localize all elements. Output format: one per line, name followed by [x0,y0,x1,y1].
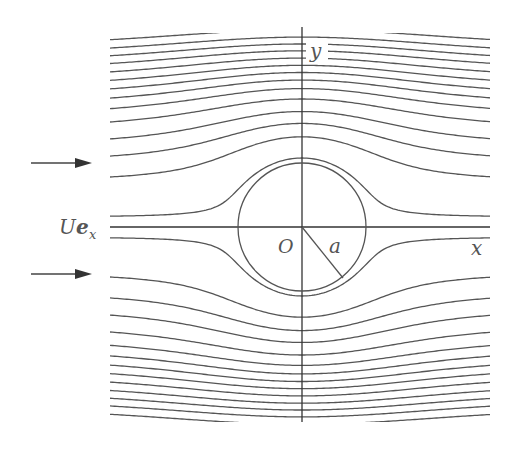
origin-label: O [278,235,294,257]
x-axis-label: x [471,236,482,260]
free-stream-label: U e x [59,215,97,242]
arrow-head-icon [75,269,92,279]
cylinder-flow-diagram: y x O a U e x [0,0,521,454]
radius-label: a [329,234,341,258]
streamline-lower [110,423,494,432]
y-axis-label: y [309,39,322,63]
free-stream-u: U [59,215,77,239]
free-stream-arrow-upper [31,158,92,168]
free-stream-e-vector: e [76,215,89,239]
arrow-head-icon [75,158,92,168]
free-stream-arrow-lower [31,269,92,279]
free-stream-subscript: x [89,227,97,242]
